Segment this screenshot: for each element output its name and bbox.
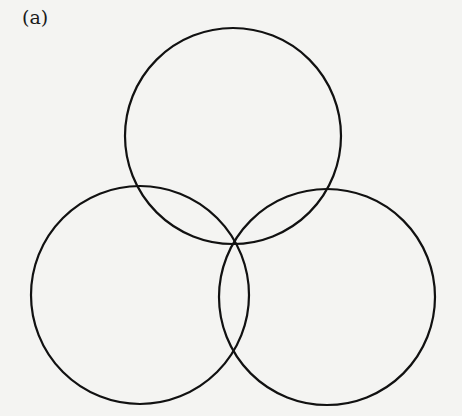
circle-top: [125, 28, 341, 244]
circle-bottom-left: [31, 186, 249, 404]
circle-bottom-right: [219, 189, 435, 405]
three-circle-diagram: [0, 0, 462, 416]
